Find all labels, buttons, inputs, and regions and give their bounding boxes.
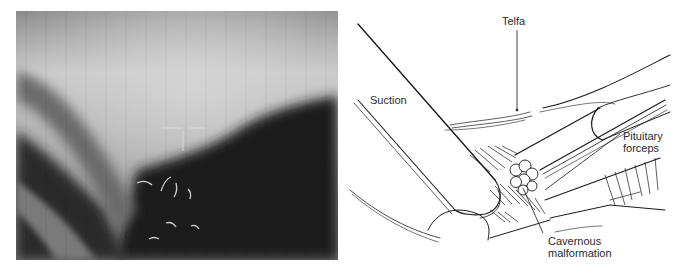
pituitary-forceps-leader-line [545,134,620,190]
label-cavernous-1: Cavernous [548,235,601,247]
intraoperative-photo [16,11,338,260]
photo-image [16,11,338,260]
label-cavernous-2: malformation [548,247,612,259]
label-pituitary-forceps-2: forceps [623,142,659,154]
label-telfa: Telfa [502,15,525,27]
label-pituitary-forceps-1: Pituitary [623,130,663,142]
cavernous-leader-line [523,188,543,233]
cavity-hatching [470,146,658,222]
surgical-illustration: Telfa Suction Pituitary forceps Cavernou… [340,0,683,278]
label-suction: Suction [370,94,407,106]
